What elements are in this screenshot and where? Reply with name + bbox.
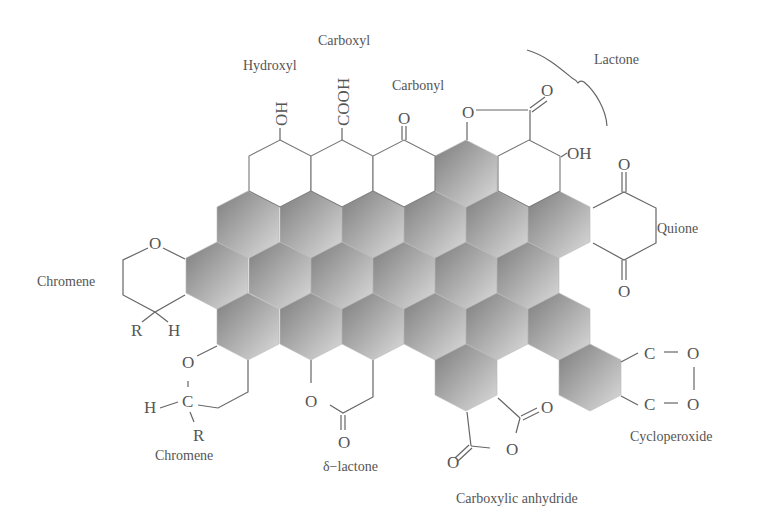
atom-quinone-o-top: O <box>618 155 630 174</box>
atom-perox-o1: O <box>687 344 699 363</box>
label-chromene-bottom: Chromene <box>155 448 213 463</box>
atom-chromene2-o: O <box>182 353 194 372</box>
atom-carbonyl-o: O <box>398 109 410 128</box>
hexagon-lattice <box>186 140 621 411</box>
atom-dlactone-o: O <box>305 392 317 411</box>
graphene-oxide-diagram: OH COOH O O O OH O O O R H O C H R O O O… <box>0 0 760 525</box>
label-carboxylic-anhydride: Carboxylic anhydride <box>456 491 578 506</box>
atom-chromene1-o: O <box>149 234 161 253</box>
atom-chromene2-c: C <box>182 392 193 411</box>
atom-cooh: COOH <box>334 78 353 126</box>
atom-anhydride-o2: O <box>506 440 518 459</box>
atom-quinone-o-bottom: O <box>618 282 630 301</box>
atom-dlactone-co: O <box>338 433 350 452</box>
atom-oh1: OH <box>272 101 291 126</box>
label-hydroxyl: Hydroxyl <box>243 58 297 73</box>
atom-chromene1-h: H <box>168 321 180 340</box>
atom-lactone-co: O <box>541 81 553 100</box>
atom-perox-c2: C <box>644 395 655 414</box>
atom-chromene1-r: R <box>131 321 143 340</box>
label-carboxyl: Carboxyl <box>318 33 370 48</box>
label-quinone: Quione <box>657 221 698 236</box>
atom-chromene2-h: H <box>144 398 156 417</box>
atom-anhydride-o1: O <box>541 398 553 417</box>
diagram-svg: OH COOH O O O OH O O O R H O C H R O O O… <box>0 0 760 525</box>
atom-oh2: OH <box>567 144 592 163</box>
atom-perox-c1: C <box>644 344 655 363</box>
label-lactone: Lactone <box>594 52 639 67</box>
atom-perox-o2: O <box>687 395 699 414</box>
atom-anhydride-o3: O <box>447 453 459 472</box>
label-carbonyl: Carbonyl <box>392 78 444 93</box>
atom-chromene2-r: R <box>193 426 205 445</box>
label-delta-lactone: δ−lactone <box>323 459 378 474</box>
atom-lactone-ring-o: O <box>462 103 474 122</box>
label-chromene-top: Chromene <box>37 274 95 289</box>
label-cycloperoxide: Cycloperoxide <box>630 429 712 444</box>
